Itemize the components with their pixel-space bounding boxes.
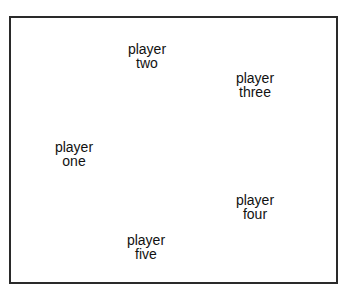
player-five-label: player five	[106, 233, 186, 261]
player-two-line1: player	[107, 42, 187, 56]
player-three-line2: three	[215, 85, 295, 99]
player-three-line1: player	[215, 71, 295, 85]
player-four-label: player four	[215, 193, 295, 221]
player-one-line1: player	[34, 140, 114, 154]
player-two-line2: two	[107, 56, 187, 70]
player-four-line2: four	[215, 207, 295, 221]
player-three-label: player three	[215, 71, 295, 99]
player-five-line1: player	[106, 233, 186, 247]
player-five-line2: five	[106, 247, 186, 261]
player-four-line1: player	[215, 193, 295, 207]
player-one-line2: one	[34, 154, 114, 168]
player-two-label: player two	[107, 42, 187, 70]
player-one-label: player one	[34, 140, 114, 168]
